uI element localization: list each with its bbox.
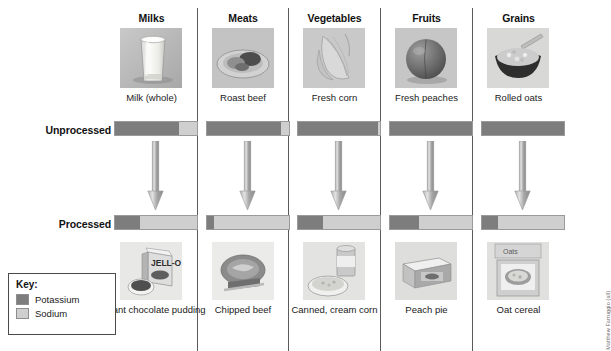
column-milks: Milks Milk (whol (106, 0, 197, 351)
legend-swatch-potassium (16, 294, 29, 305)
bar-segment-potassium (115, 122, 179, 135)
legend-label-sodium: Sodium (35, 308, 67, 319)
row-label-processed: Processed (6, 218, 111, 230)
legend-key-box: Key: Potassium Sodium (8, 273, 116, 335)
photo-fresh-corn (303, 28, 365, 88)
bar-processed-milks (114, 215, 198, 230)
bar-segment-potassium (390, 216, 419, 229)
bar-segment-potassium (298, 216, 323, 229)
column-header-meats: Meats (198, 12, 288, 24)
column-vegetables: Vegetables Fresh corn (289, 0, 380, 351)
legend-swatch-sodium (16, 308, 29, 319)
photo-roast-beef (212, 28, 274, 88)
legend-item-potassium: Potassium (16, 294, 108, 305)
process-arrow-vegetables (330, 141, 347, 211)
bar-processed-grains (481, 215, 565, 230)
glass-of-milk-icon (120, 28, 182, 88)
bar-segment-potassium (482, 216, 498, 229)
bar-segment-sodium (378, 122, 380, 135)
svg-text:JELL-O: JELL-O (151, 258, 182, 268)
bar-unprocessed-vegetables (297, 121, 381, 136)
bar-segment-sodium (140, 216, 197, 229)
svg-text:Oats: Oats (503, 248, 518, 255)
bar-unprocessed-milks (114, 121, 198, 136)
bar-segment-sodium (281, 122, 289, 135)
photo-instant-chocolate-pudding: JELL-O (120, 242, 182, 300)
photo-peach-pie (395, 242, 457, 300)
bar-segment-sodium (214, 216, 289, 229)
bar-segment-potassium (390, 122, 472, 135)
fresh-peach-icon (395, 28, 457, 88)
photo-credit: Matthew Farruggio (all) (605, 291, 611, 350)
process-arrow-grains (514, 141, 531, 211)
bar-unprocessed-meats (206, 121, 290, 136)
row-label-unprocessed: Unprocessed (6, 124, 111, 136)
column-fruits: Fruits Fresh peaches (381, 0, 472, 351)
legend-item-sodium: Sodium (16, 308, 108, 319)
process-arrow-milks (147, 141, 164, 211)
bowl-of-oats-icon (487, 28, 549, 88)
bar-processed-meats (206, 215, 290, 230)
process-arrow-meats (239, 141, 256, 211)
fresh-corn-cob-icon (303, 28, 365, 88)
column-meats: Meats Roast beef (198, 0, 288, 351)
bar-segment-sodium (179, 122, 197, 135)
bar-segment-sodium (323, 216, 380, 229)
legend-label-potassium: Potassium (35, 294, 79, 305)
jello-pudding-box-icon: JELL-O (120, 242, 182, 300)
bar-segment-potassium (298, 122, 378, 135)
column-header-vegetables: Vegetables (289, 12, 380, 24)
bar-segment-potassium (207, 122, 281, 135)
process-arrow-fruits (422, 141, 439, 211)
bar-segment-potassium (482, 122, 564, 135)
bar-segment-sodium (498, 216, 564, 229)
roast-beef-plate-icon (212, 28, 274, 88)
bar-segment-potassium (115, 216, 140, 229)
bar-unprocessed-fruits (389, 121, 473, 136)
bar-unprocessed-grains (481, 121, 565, 136)
caption-oat-cereal: Oat cereal (463, 304, 574, 315)
bar-processed-fruits (389, 215, 473, 230)
column-header-fruits: Fruits (381, 12, 472, 24)
column-header-grains: Grains (473, 12, 564, 24)
bar-segment-sodium (419, 216, 472, 229)
peach-pie-box-icon (395, 242, 457, 300)
column-grains: Grains Rolled oats (473, 0, 564, 351)
bar-processed-vegetables (297, 215, 381, 230)
oat-cereal-box-icon: Oats (487, 242, 549, 300)
photo-chipped-beef (212, 242, 274, 300)
column-header-milks: Milks (106, 12, 197, 24)
caption-rolled-oats: Rolled oats (463, 92, 574, 103)
canned-corn-bowl-icon (303, 242, 365, 300)
photo-rolled-oats (487, 28, 549, 88)
chipped-beef-plate-icon (212, 242, 274, 300)
photo-oat-cereal: Oats (487, 242, 549, 300)
legend-title: Key: (16, 279, 108, 290)
photo-canned-cream-corn (303, 242, 365, 300)
photo-fresh-peaches (395, 28, 457, 88)
photo-milk-whole (120, 28, 182, 88)
